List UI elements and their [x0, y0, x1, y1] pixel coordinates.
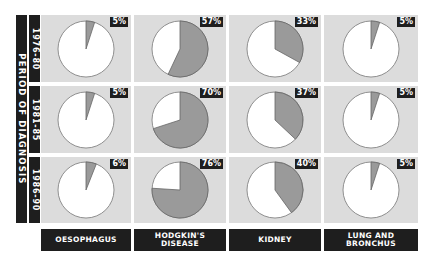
period-axis-label: PERIOD OF DIAGNOSIS: [17, 53, 27, 184]
pie-cell: 5%: [324, 86, 418, 153]
pie-chart: [245, 90, 305, 150]
row-label-1986-90: 1986-90: [29, 157, 40, 223]
pie-chart: [56, 90, 116, 150]
percent-badge: 5%: [397, 88, 415, 98]
pie-cell: 40%: [229, 157, 321, 223]
percent-badge: 70%: [200, 88, 223, 98]
percent-badge: 5%: [397, 159, 415, 169]
percent-badge: 76%: [200, 159, 223, 169]
pie-chart: [341, 160, 401, 220]
pie-cell: 5%: [324, 157, 418, 223]
pie-cell: 70%: [134, 86, 226, 153]
pie-chart: [150, 19, 210, 79]
pie-chart: [341, 90, 401, 150]
pie-cell: 33%: [229, 15, 321, 82]
pie-cell: 37%: [229, 86, 321, 153]
percent-badge: 37%: [295, 88, 318, 98]
pie-cell: 76%: [134, 157, 226, 223]
percent-badge: 5%: [110, 88, 128, 98]
percent-badge: 40%: [295, 159, 318, 169]
percent-badge: 6%: [110, 159, 128, 169]
period-of-diagnosis-axis: PERIOD OF DIAGNOSIS: [16, 15, 27, 223]
year-label: 1981-85: [30, 98, 39, 140]
pie-chart: [245, 160, 305, 220]
percent-badge: 5%: [397, 17, 415, 27]
pie-chart: [150, 90, 210, 150]
column-label-oesophagus: OESOPHAGUS: [41, 229, 131, 251]
column-label-kidney: KIDNEY: [229, 229, 321, 251]
pie-cell: 5%: [41, 15, 131, 82]
percent-badge: 57%: [200, 17, 223, 27]
column-label-hodgkins: HODGKIN'SDISEASE: [134, 229, 226, 251]
row-label-1976-80: 1976-80: [29, 15, 40, 82]
percent-badge: 33%: [295, 17, 318, 27]
pie-cell: 6%: [41, 157, 131, 223]
pie-chart: [245, 19, 305, 79]
pie-cell: 57%: [134, 15, 226, 82]
pie-cell: 5%: [41, 86, 131, 153]
pie-chart: [341, 19, 401, 79]
year-label: 1986-90: [30, 169, 39, 211]
year-label: 1976-80: [30, 27, 39, 69]
row-label-1981-85: 1981-85: [29, 86, 40, 153]
pie-chart: [56, 19, 116, 79]
pie-chart: [150, 160, 210, 220]
column-label-lung-bronchus: LUNG ANDBRONCHUS: [324, 229, 418, 251]
percent-badge: 5%: [110, 17, 128, 27]
pie-chart: [56, 160, 116, 220]
pie-cell: 5%: [324, 15, 418, 82]
